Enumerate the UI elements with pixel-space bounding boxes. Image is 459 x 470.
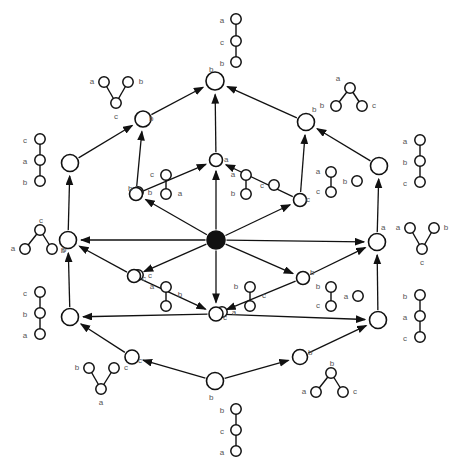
edge-r3-r2 bbox=[377, 255, 378, 310]
edge-imr2-r2 bbox=[310, 248, 365, 275]
poset-inner-bottom-right-pair-vertex bbox=[326, 282, 336, 292]
poset-right-v-vertex bbox=[405, 223, 415, 233]
node-tag-top: b bbox=[209, 65, 214, 74]
poset-inner-top-right-pair: abc bbox=[231, 170, 279, 199]
lattice-node-inner-top[interactable] bbox=[210, 154, 223, 167]
node-tag-m2: c bbox=[223, 313, 227, 322]
lattice-node-lower-right[interactable] bbox=[293, 350, 308, 365]
poset-top-chain-vertex-label: b bbox=[220, 59, 225, 68]
lattice-node-bottom[interactable] bbox=[207, 373, 224, 390]
poset-inner-bottom-right-pair-vertex-label: b bbox=[316, 282, 321, 291]
poset-inner-right-pair-vertex bbox=[326, 167, 336, 177]
poset-inner-top-left-pair-vertex bbox=[161, 170, 171, 180]
edge-l3-l2 bbox=[68, 253, 69, 307]
poset-lower-left-v: bca bbox=[75, 363, 128, 407]
poset-lower-right-v-vertex bbox=[311, 387, 321, 397]
lattice-node-right-lower[interactable] bbox=[369, 234, 386, 251]
poset-left-v-vertex-label: a bbox=[11, 244, 16, 253]
poset-left-v-vertex bbox=[47, 244, 57, 254]
poset-right-v-vertex bbox=[429, 223, 439, 233]
poset-left-upper-chain-vertex-label: a bbox=[23, 157, 28, 166]
edge-br-r3 bbox=[308, 326, 366, 354]
poset-upper-left-v-vertex-label: a bbox=[90, 77, 95, 86]
edge-ur-top bbox=[227, 87, 297, 118]
poset-inner-bottom-left-pair-vertex bbox=[161, 282, 171, 292]
edge-imr-ur bbox=[301, 135, 305, 192]
poset-left-v-vertex bbox=[35, 225, 45, 235]
edge-l1-ul bbox=[79, 125, 133, 157]
poset-inner-bottom-right-pair-vertex-label: a bbox=[344, 292, 349, 301]
poset-right-bottom-chain-vertex-label: a bbox=[403, 313, 408, 322]
lattice-node-inner-lower-right[interactable] bbox=[297, 272, 310, 285]
poset-inner-top-left-pair-vertex bbox=[161, 189, 171, 199]
poset-inner-bottom-mid-pair-vertex-label: a bbox=[232, 308, 237, 317]
poset-right-upper-chain: abc bbox=[403, 135, 425, 188]
lattice-node-top[interactable] bbox=[206, 72, 224, 90]
poset-inner-bottom-right-pair-vertex bbox=[353, 291, 363, 301]
lattice-node-left-bottom[interactable] bbox=[62, 309, 79, 326]
poset-left-v-vertex-label: c bbox=[39, 216, 43, 225]
poset-upper-left-v-vertex bbox=[123, 77, 133, 87]
poset-right-upper-chain-vertex-label: a bbox=[403, 137, 408, 146]
poset-lower-left-v-vertex-label: b bbox=[75, 363, 80, 372]
lattice-node-inner-bottom[interactable] bbox=[209, 307, 223, 321]
poset-top-chain-vertex bbox=[231, 36, 241, 46]
poset-upper-left-v-vertex-label: c bbox=[114, 112, 118, 121]
edge-m2-r3 bbox=[224, 314, 365, 319]
poset-inner-right-pair-vertex-label: c bbox=[316, 187, 320, 196]
poset-right-v-vertex-label: b bbox=[444, 223, 449, 232]
poset-inner-bottom-right-pair-vertex bbox=[326, 301, 336, 311]
poset-left-bottom-chain: cba bbox=[23, 287, 45, 340]
node-tag-iml: b bbox=[128, 184, 133, 193]
lattice-node-upper-right[interactable] bbox=[298, 114, 315, 131]
poset-inner-bottom-mid-pair-vertex-label: b bbox=[234, 282, 239, 291]
poset-top-chain-vertex bbox=[231, 14, 241, 24]
poset-inner-right-pair-vertex-label: a bbox=[316, 167, 321, 176]
poset-lower-right-v: bac bbox=[302, 359, 357, 397]
poset-bottom-chain-vertex-label: c bbox=[220, 427, 224, 436]
edge-center-iml bbox=[146, 199, 207, 234]
poset-inner-bottom-right-pair-vertex-label: c bbox=[316, 301, 320, 310]
poset-upper-right-v-vertex bbox=[331, 101, 341, 111]
lattice-node-center[interactable] bbox=[207, 231, 225, 249]
lattice-node-lower-left[interactable] bbox=[125, 350, 139, 364]
poset-lower-right-v-vertex bbox=[326, 368, 336, 378]
poset-right-v-vertex-label: a bbox=[396, 223, 401, 232]
lattice-node-right-bottom[interactable] bbox=[370, 312, 387, 329]
lattice-node-inner-upper-right[interactable] bbox=[294, 194, 307, 207]
poset-lower-right-v-vertex-label: b bbox=[330, 359, 335, 368]
poset-upper-right-v-vertex bbox=[345, 83, 355, 93]
edge-ul-top bbox=[151, 87, 203, 114]
poset-right-bottom-chain-vertex bbox=[415, 290, 425, 300]
poset-lower-left-v-vertex bbox=[84, 363, 94, 373]
poset-upper-right-v-vertex-label: b bbox=[320, 101, 325, 110]
lattice-node-tags: bbbabcbacbccbb bbox=[62, 65, 386, 402]
lattice-diagram-svg: acbabcabccababccababcacbcababcabcbcabcac… bbox=[0, 0, 459, 470]
poset-bottom-chain-vertex bbox=[231, 404, 241, 414]
lattice-node-left-upper[interactable] bbox=[62, 155, 79, 172]
poset-upper-left-v-vertex bbox=[99, 77, 109, 87]
poset-right-upper-chain-vertex bbox=[415, 156, 425, 166]
poset-right-bottom-chain-vertex-label: b bbox=[403, 292, 408, 301]
diagram-canvas: acbabcabccababccababcacbcababcabcbcabcac… bbox=[0, 0, 459, 470]
poset-right-upper-chain-vertex bbox=[415, 135, 425, 145]
poset-right-v: abc bbox=[396, 223, 449, 267]
poset-left-upper-chain: cab bbox=[23, 134, 45, 187]
node-tag-r2: a bbox=[381, 223, 386, 232]
lattice-node-inner-lower-left[interactable] bbox=[128, 270, 141, 283]
edge-center-imr bbox=[225, 205, 290, 236]
poset-inner-top-left-pair-vertex-label: c bbox=[150, 170, 154, 179]
edge-center-imr2 bbox=[226, 244, 293, 273]
poset-inner-top-right-pair-vertex-label: c bbox=[260, 181, 264, 190]
node-tag-ul: b bbox=[149, 114, 154, 123]
poset-right-bottom-chain-vertex bbox=[415, 311, 425, 321]
poset-inner-right-pair: acb bbox=[316, 167, 362, 197]
poset-inner-bottom-left-pair-vertex bbox=[161, 301, 171, 311]
edge-iml2-l2 bbox=[79, 246, 127, 272]
poset-top-chain: acb bbox=[220, 14, 241, 68]
poset-right-v-vertex-label: c bbox=[420, 258, 424, 267]
poset-left-upper-chain-vertex bbox=[35, 155, 45, 165]
poset-right-bottom-chain-vertex-label: c bbox=[403, 334, 407, 343]
edge-l2-l1 bbox=[68, 176, 69, 230]
lattice-node-right-upper[interactable] bbox=[371, 158, 388, 175]
